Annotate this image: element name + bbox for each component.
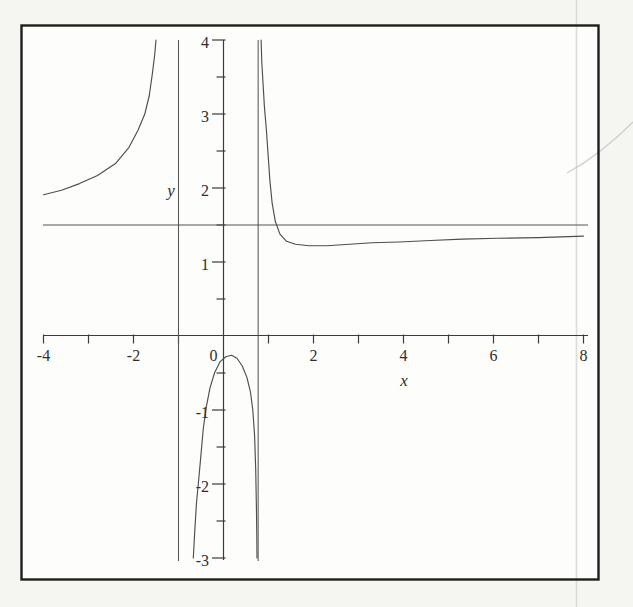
scanned-page: -4-202468 4321-1-2-3 x y: [0, 0, 633, 607]
y-tick-label: 1: [201, 256, 209, 273]
y-tick-label: 4: [201, 34, 209, 51]
x-tick-label: -4: [37, 347, 50, 364]
y-tick-label: 2: [201, 182, 209, 199]
y-tick-label: -3: [196, 552, 209, 569]
y-tick-label: -1: [196, 404, 209, 421]
x-tick-label: 8: [580, 347, 588, 364]
y-tick-label: 3: [201, 108, 209, 125]
x-tick-label: -2: [127, 347, 140, 364]
function-plot: -4-202468 4321-1-2-3 x y: [0, 0, 633, 607]
y-tick-label: -2: [196, 478, 209, 495]
plot-area-background: [22, 26, 599, 580]
x-tick-label: 6: [490, 347, 498, 364]
y-axis-title: y: [165, 181, 175, 200]
x-tick-label: 4: [400, 347, 408, 364]
x-tick-label: 0: [210, 347, 218, 364]
x-axis-title: x: [399, 371, 408, 390]
x-tick-label: 2: [310, 347, 318, 364]
